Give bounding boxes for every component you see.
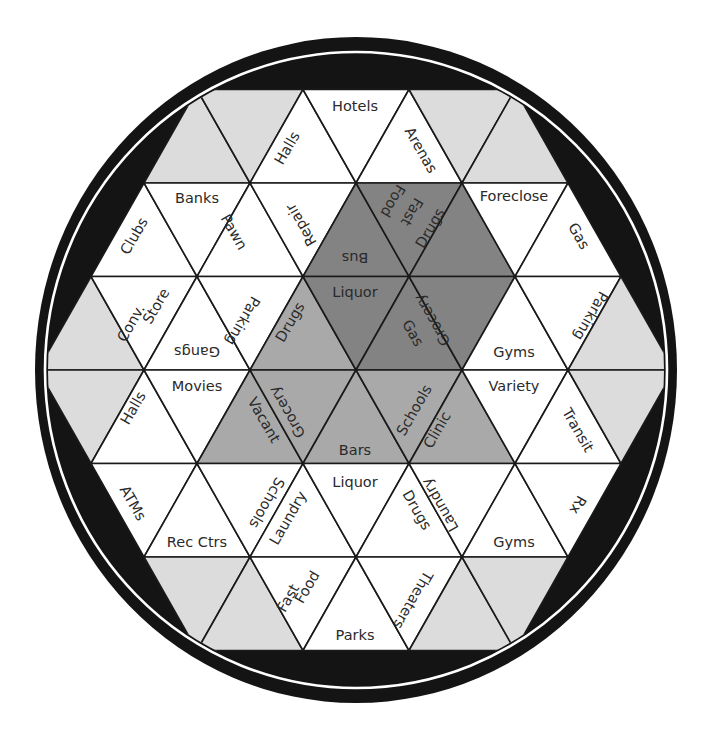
cell-label: Variety [489, 378, 540, 394]
cell-label: Gangs [174, 344, 220, 360]
cell-label: Liquor [332, 474, 377, 490]
neighborhood-hexagon-diagram: HotelsHallsArenasBanksClubsPawnRepairBus… [0, 0, 710, 734]
cell-label: Bars [339, 442, 371, 458]
cell-label: Hotels [332, 98, 378, 114]
cell-label: Gyms [493, 344, 535, 360]
cell-label: Liquor [332, 284, 377, 300]
cell-label: Movies [172, 378, 222, 394]
cell-label: Gyms [493, 534, 535, 550]
cell-label: Foreclose [480, 188, 549, 204]
cell-label: Rec Ctrs [167, 534, 227, 550]
cell-label: Banks [175, 190, 219, 206]
cell-label: Parks [336, 627, 375, 643]
cell-label: Bus [342, 250, 369, 266]
